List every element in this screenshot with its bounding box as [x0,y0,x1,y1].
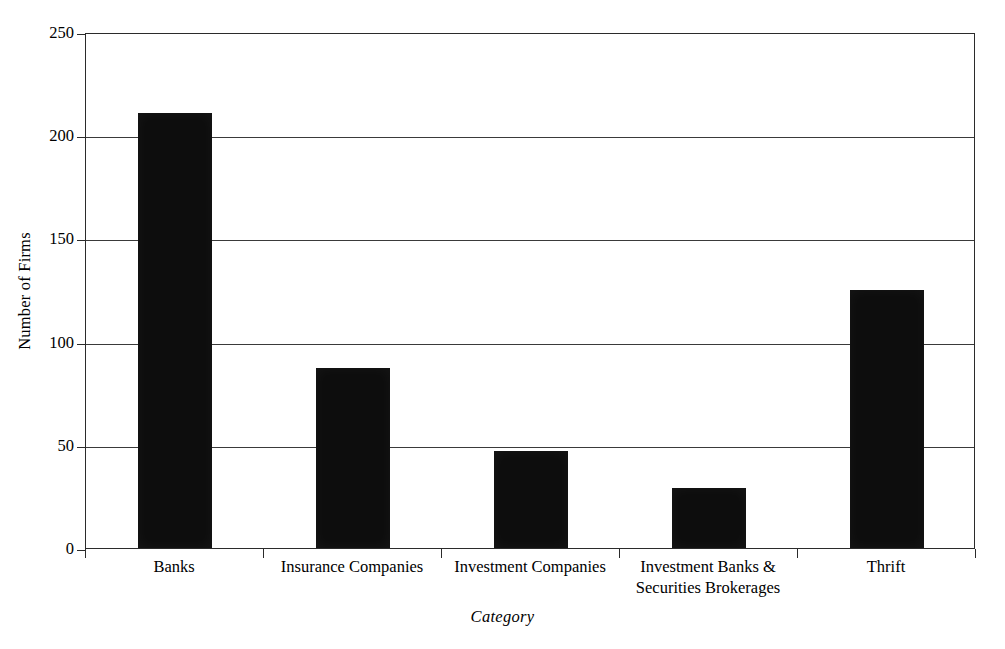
y-axis-tick-label: 150 [28,231,74,247]
x-axis-category-label: Banks [85,556,263,577]
x-axis-tick-mark [975,549,976,558]
y-axis-tick-labels: 050100150200250 [0,0,74,649]
y-axis-tick-mark [77,137,86,138]
x-axis-category-label: Investment Banks & Securities Brokerages [619,556,797,598]
y-axis-tick-mark [77,240,86,241]
bar [672,488,746,548]
y-axis-tick-label: 50 [28,438,74,454]
bar [494,451,568,548]
bar [138,113,212,549]
bar-chart-figure: Number of Firms 050100150200250 BanksIns… [0,0,1005,649]
x-axis-category-label: Insurance Companies [263,556,441,577]
x-axis-category-label: Thrift [797,556,975,577]
y-axis-tick-label: 0 [28,541,74,557]
bar [316,368,390,548]
y-axis-tick-label: 100 [28,335,74,351]
y-axis-tick-mark [77,34,86,35]
y-axis-tick-label: 200 [28,128,74,144]
x-axis-category-label: Investment Companies [441,556,619,577]
y-axis-tick-label: 250 [28,25,74,41]
y-axis-tick-mark [77,447,86,448]
y-axis-tick-mark [77,344,86,345]
bar-series [86,34,974,548]
bar [850,290,924,548]
plot-area [85,33,975,549]
x-axis-title: Category [0,607,1005,627]
